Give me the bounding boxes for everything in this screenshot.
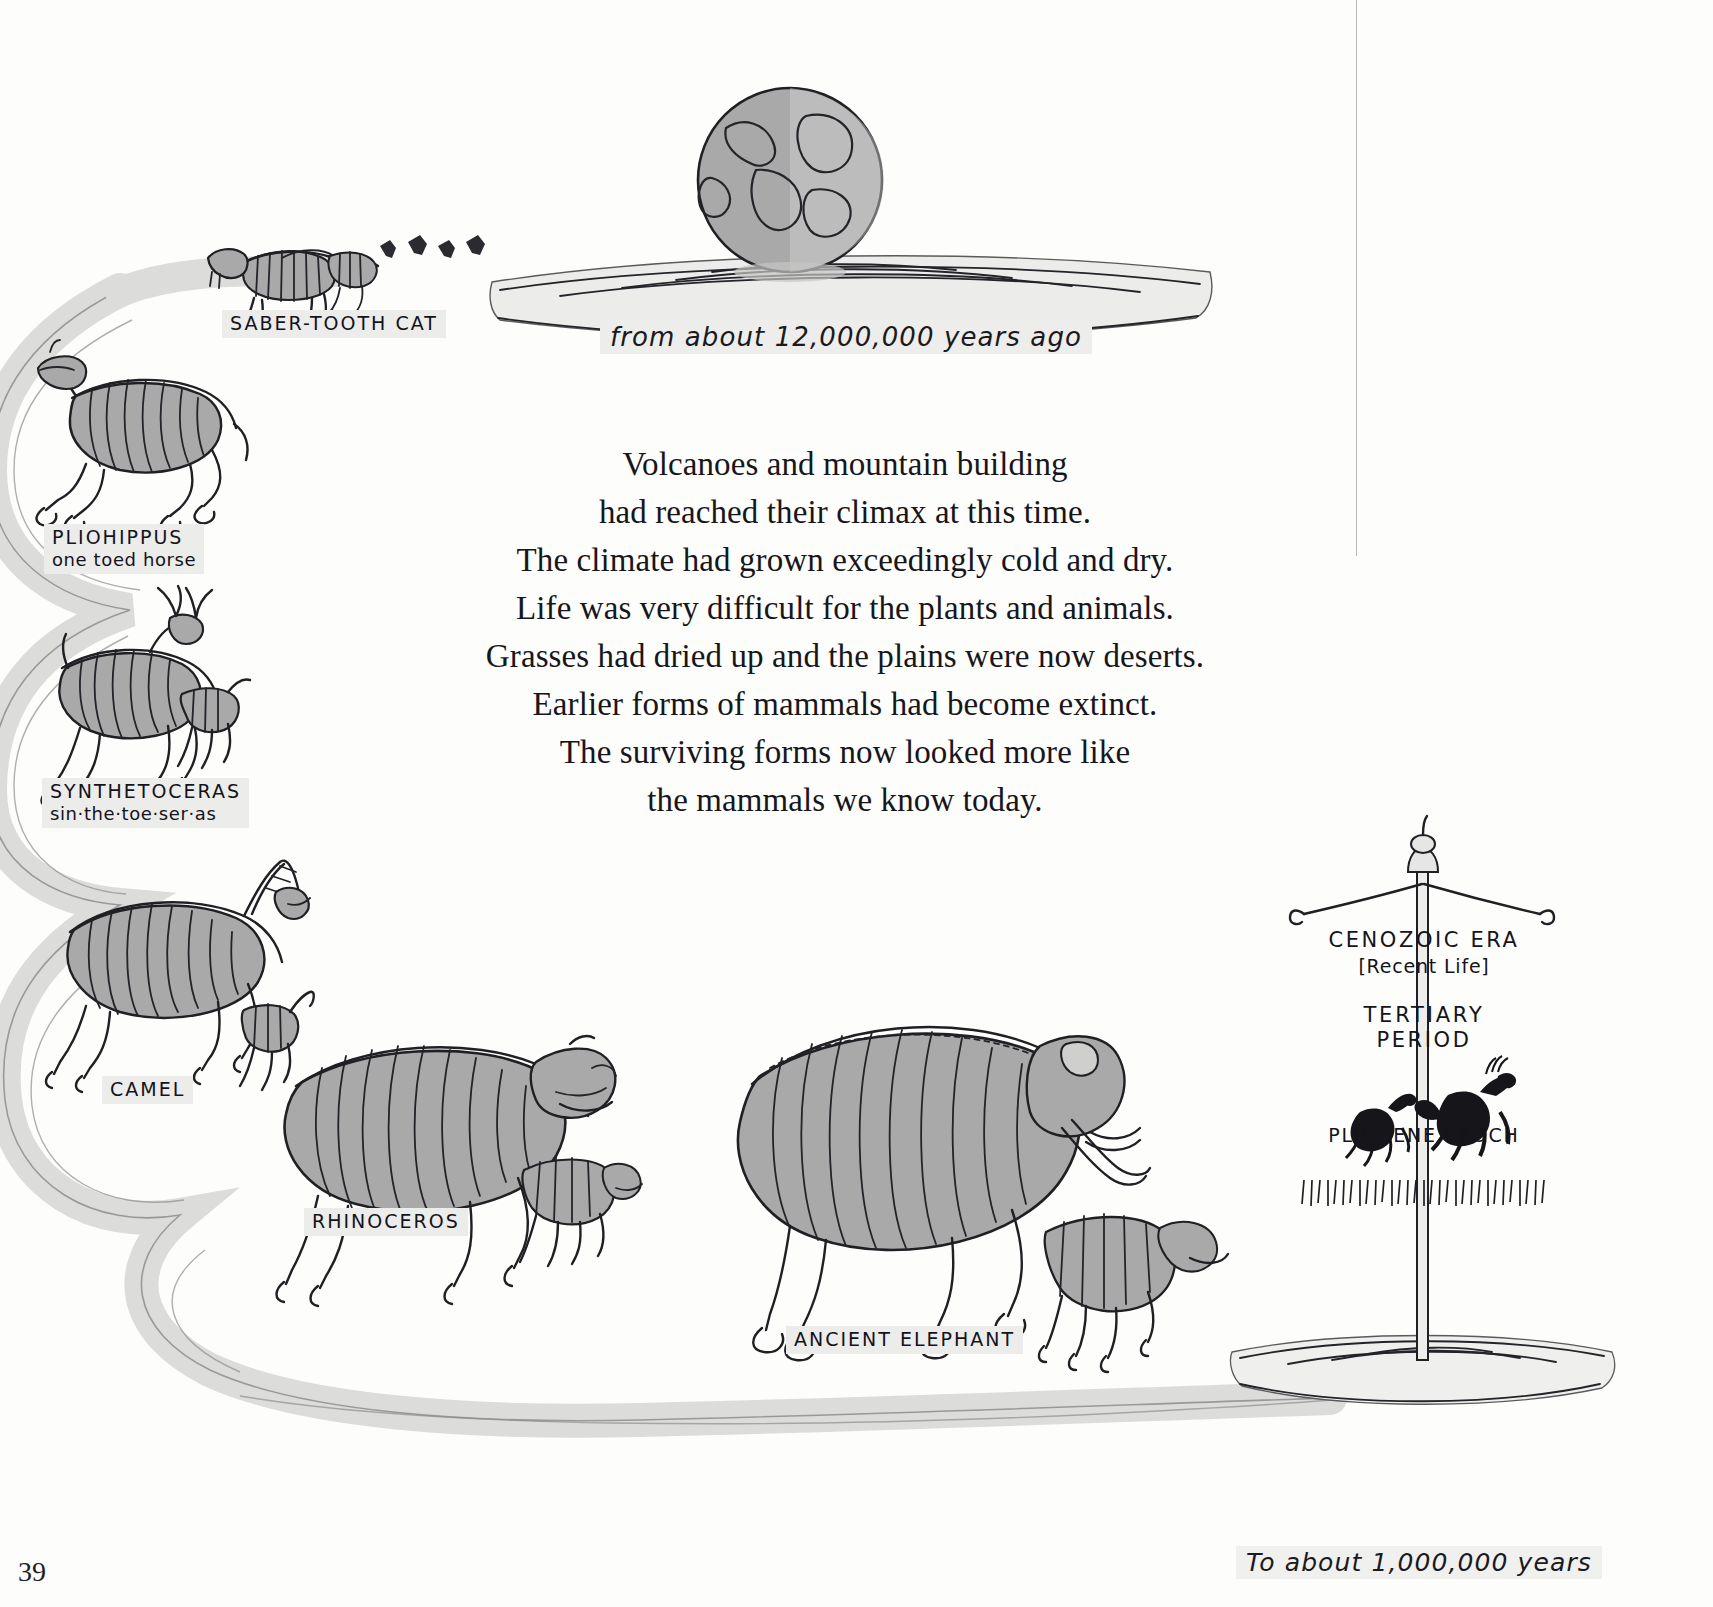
label-pliohippus: PLIOHIPPUS one toed horse bbox=[44, 524, 204, 574]
specimen-title: RHINOCEROS bbox=[312, 1210, 460, 1233]
ancient-elephant-skeleton bbox=[738, 1027, 1228, 1372]
poem-line-1: Volcanoes and mountain building bbox=[420, 440, 1270, 488]
poem-line-4: Life was very difficult for the plants a… bbox=[420, 584, 1270, 632]
rhinoceros-skeleton bbox=[277, 1036, 643, 1306]
specimen-title: SABER-TOOTH CAT bbox=[230, 312, 438, 335]
poem-line-8: the mammals we know today. bbox=[420, 776, 1270, 824]
label-rhinoceros: RHINOCEROS bbox=[304, 1208, 468, 1236]
label-camel: CAMEL bbox=[102, 1076, 193, 1104]
poem-line-7: The surviving forms now looked more like bbox=[420, 728, 1270, 776]
illustrated-book-page: CENOZOIC ERA [Recent Life] TERTIARY PERI… bbox=[0, 0, 1713, 1607]
margin-rule bbox=[1356, 0, 1357, 556]
body-text: Volcanoes and mountain building had reac… bbox=[420, 440, 1270, 824]
synthetoceras-skeleton bbox=[42, 586, 251, 808]
poem-line-6: Earlier forms of mammals had become exti… bbox=[420, 680, 1270, 728]
banner-epoch-label: PLIOCENE EPOCH bbox=[1304, 1124, 1544, 1146]
poem-line-2: had reached their climax at this time. bbox=[420, 488, 1270, 536]
banner-era-label: CENOZOIC ERA bbox=[1304, 928, 1544, 952]
era-end-caption: To about 1,000,000 years bbox=[1236, 1546, 1602, 1579]
banner-era-meaning: [Recent Life] bbox=[1304, 955, 1544, 977]
specimen-pronunciation: sin·the·toe·ser·as bbox=[50, 803, 241, 825]
pliohippus-skeleton bbox=[37, 340, 248, 533]
era-start-caption: from about 12,000,000 years ago bbox=[600, 320, 1092, 354]
label-synthetoceras: SYNTHETOCERAS sin·the·toe·ser·as bbox=[42, 778, 249, 828]
page-number: 39 bbox=[18, 1556, 46, 1588]
poem-line-5: Grasses had dried up and the plains were… bbox=[420, 632, 1270, 680]
specimen-title: PLIOHIPPUS bbox=[52, 526, 196, 549]
earth-globe-on-plinth bbox=[490, 88, 1212, 339]
camel-skeleton bbox=[46, 861, 314, 1092]
specimen-title: SYNTHETOCERAS bbox=[50, 780, 241, 803]
geologic-time-banner: CENOZOIC ERA [Recent Life] TERTIARY PERI… bbox=[1280, 820, 1580, 1420]
label-saber-tooth-cat: SABER-TOOTH CAT bbox=[222, 310, 446, 338]
banner-period-line2: PERIOD bbox=[1304, 1028, 1544, 1052]
banner-period-line1: TERTIARY bbox=[1304, 1003, 1544, 1027]
specimen-pronunciation: one toed horse bbox=[52, 549, 196, 571]
specimen-title: CAMEL bbox=[110, 1078, 185, 1101]
label-ancient-elephant: ANCIENT ELEPHANT bbox=[786, 1326, 1023, 1354]
poem-line-3: The climate had grown exceedingly cold a… bbox=[420, 536, 1270, 584]
specimen-title: ANCIENT ELEPHANT bbox=[794, 1328, 1015, 1351]
